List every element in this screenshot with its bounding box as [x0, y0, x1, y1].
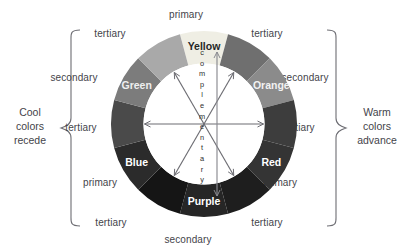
right-brace-icon	[323, 28, 349, 228]
segment-label-orange: Orange	[253, 79, 290, 91]
segment-label-yellow: Yellow	[188, 40, 222, 52]
complementary-letter: c	[200, 48, 204, 57]
complementary-letter: t	[201, 143, 203, 152]
complementary-letter: e	[200, 122, 204, 131]
warm-note-line-2: colors	[350, 119, 404, 133]
segment-label-green: Green	[121, 79, 151, 91]
ring-label-primary-top: primary	[169, 9, 203, 20]
color-wheel: YellowOrangeRedPurpleBlueGreen complemen…	[108, 28, 300, 220]
warm-colors-note: Warm colors advance	[350, 105, 404, 147]
cool-note-line-2: colors	[6, 119, 54, 133]
segment-label-blue: Blue	[125, 156, 148, 168]
segment-label-red: Red	[261, 156, 281, 168]
complementary-letter: n	[200, 133, 204, 142]
color-wheel-diagram: Cool colors recede Warm colors advance p…	[0, 0, 407, 251]
complementary-letter: m	[199, 69, 205, 78]
complementary-letter: y	[200, 175, 204, 184]
ring-label-secondary-left: secondary	[50, 72, 97, 83]
complementary-letter: p	[200, 80, 204, 89]
complementary-letter: e	[200, 101, 204, 110]
warm-note-line-3: advance	[350, 133, 404, 147]
ring-label-tertiary-mid-left: tertiary	[65, 122, 96, 133]
complementary-letter: o	[200, 59, 204, 68]
cool-note-line-1: Cool	[6, 105, 54, 119]
cool-note-line-3: recede	[6, 133, 54, 147]
complementary-letter: m	[199, 112, 205, 121]
cool-colors-note: Cool colors recede	[6, 105, 54, 147]
warm-note-line-1: Warm	[350, 105, 404, 119]
wheel-segment-tertiary-red-orange	[262, 100, 297, 148]
segment-label-purple: Purple	[188, 195, 221, 207]
wheel-segment-tertiary-blue-green	[111, 100, 146, 148]
ring-label-secondary-bottom: secondary	[164, 234, 211, 245]
